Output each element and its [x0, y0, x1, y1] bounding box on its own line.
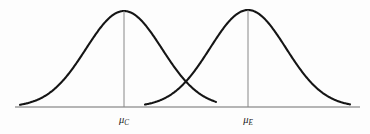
control-mean-label: μC [118, 114, 129, 127]
control-distribution-curve [20, 11, 216, 105]
experimental-mean-label: μE [242, 114, 253, 127]
figure-container: μC μE [0, 0, 370, 134]
distribution-chart: μC μE [0, 0, 370, 134]
